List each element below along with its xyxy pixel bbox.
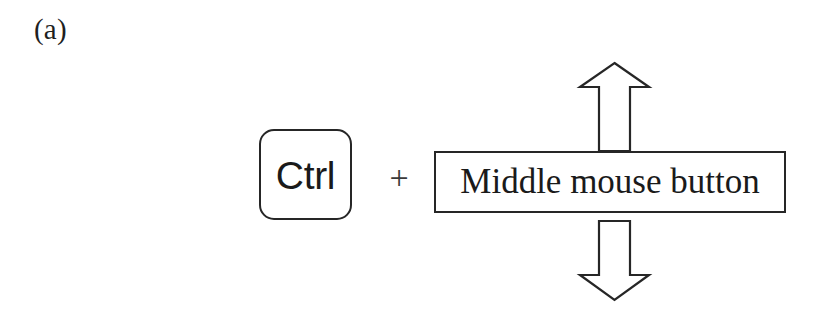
- up-arrow-icon: [578, 58, 652, 154]
- ctrl-key-label: Ctrl: [276, 156, 335, 195]
- ctrl-key-cap: Ctrl: [259, 129, 352, 220]
- figure-canvas: (a) Ctrl + Middle mouse button: [0, 0, 819, 317]
- plus-symbol: +: [383, 156, 415, 200]
- down-arrow-icon: [578, 218, 652, 304]
- panel-label: (a): [34, 12, 67, 46]
- middle-mouse-button-label: Middle mouse button: [460, 164, 759, 199]
- middle-mouse-button-box: Middle mouse button: [434, 151, 786, 213]
